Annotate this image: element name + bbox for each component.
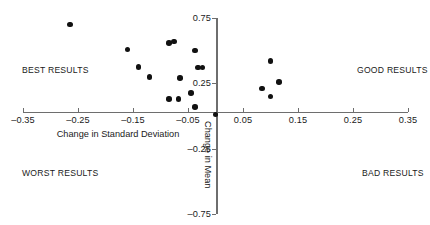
data-point <box>259 86 265 92</box>
data-point <box>171 39 177 45</box>
scatter-chart: –0.35–0.25–0.15–0.050.050.150.250.350.75… <box>0 0 430 225</box>
data-point <box>192 48 198 54</box>
data-point <box>125 47 131 53</box>
data-point <box>176 96 182 102</box>
data-point <box>67 22 73 28</box>
data-point <box>177 75 183 81</box>
data-point <box>276 79 282 85</box>
data-point <box>136 64 142 70</box>
data-point <box>166 96 172 102</box>
data-points-layer <box>0 0 430 225</box>
data-point <box>188 90 194 96</box>
data-point <box>213 112 219 118</box>
data-point <box>268 58 274 64</box>
data-point <box>192 104 198 110</box>
data-point <box>147 74 153 80</box>
data-point <box>200 65 206 71</box>
data-point <box>268 94 274 100</box>
